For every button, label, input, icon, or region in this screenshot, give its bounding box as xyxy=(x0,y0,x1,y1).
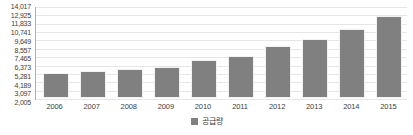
bar-slot xyxy=(74,7,111,98)
bar-slot xyxy=(111,7,148,98)
bar-slot xyxy=(370,7,407,98)
y-axis-tick-label: 8,557 xyxy=(14,46,31,53)
bar-slot xyxy=(148,7,185,98)
legend-swatch-icon xyxy=(191,118,198,125)
plot-area xyxy=(35,7,407,100)
bar-slot xyxy=(259,7,296,98)
bar-slot xyxy=(185,7,222,98)
y-axis: 14,01712,92511,83310,7419,6498,5577,4656… xyxy=(0,6,33,102)
x-axis-tick-label: 2010 xyxy=(184,102,221,111)
bar-2008[interactable] xyxy=(117,69,143,98)
x-axis-tick-label: 2011 xyxy=(221,102,258,111)
y-axis-tick-label: 4,189 xyxy=(14,81,31,88)
x-axis-tick-label: 2007 xyxy=(73,102,110,111)
bar-2012[interactable] xyxy=(265,46,291,98)
bar-2011[interactable] xyxy=(228,56,254,98)
bar-2010[interactable] xyxy=(191,60,217,98)
y-axis-tick-label: 11,833 xyxy=(11,20,31,27)
x-axis-tick-label: 2013 xyxy=(296,102,333,111)
bar-2006[interactable] xyxy=(43,73,69,98)
x-axis-tick-label: 2015 xyxy=(370,102,407,111)
bar-slot xyxy=(222,7,259,98)
y-axis-tick-label: 3,097 xyxy=(14,90,31,97)
bar-slot xyxy=(37,7,74,98)
bar-slot xyxy=(296,7,333,98)
chart-legend: 공급량 xyxy=(0,117,413,126)
x-axis-tick-label: 2006 xyxy=(36,102,73,111)
bar-2013[interactable] xyxy=(302,39,328,98)
y-axis-tick-label: 10,741 xyxy=(11,29,31,36)
bar-2014[interactable] xyxy=(339,29,365,98)
bar-2007[interactable] xyxy=(80,71,106,98)
x-axis-tick-label: 2014 xyxy=(333,102,370,111)
x-axis-tick-label: 2008 xyxy=(110,102,147,111)
bar-slot xyxy=(333,7,370,98)
y-axis-tick-label: 9,649 xyxy=(14,37,31,44)
bar-chart: 14,01712,92511,83310,7419,6498,5577,4656… xyxy=(0,0,413,135)
y-axis-tick-label: 5,281 xyxy=(14,72,31,79)
x-axis-tick-label: 2012 xyxy=(259,102,296,111)
x-axis-tick-label: 2009 xyxy=(147,102,184,111)
bar-2009[interactable] xyxy=(154,67,180,98)
y-axis-tick-label: 6,373 xyxy=(14,64,31,71)
gridline xyxy=(36,99,407,100)
bar-series-공급량 xyxy=(37,7,407,98)
y-axis-tick-label: 12,925 xyxy=(11,11,31,18)
y-axis-tick-label: 2,005 xyxy=(14,99,31,106)
legend-label: 공급량 xyxy=(202,117,223,126)
y-axis-tick-label: 14,017 xyxy=(11,3,31,10)
y-axis-tick-label: 7,465 xyxy=(14,55,31,62)
x-axis: 2006200720082009201020112012201320142015 xyxy=(36,102,407,111)
bar-2015[interactable] xyxy=(376,16,402,98)
